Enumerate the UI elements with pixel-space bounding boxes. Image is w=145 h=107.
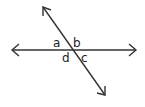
transversal-line — [43, 7, 105, 95]
angle-label-d: d — [62, 51, 70, 65]
angle-diagram: a b c d — [0, 0, 145, 107]
angle-label-b: b — [73, 36, 81, 50]
angle-label-a: a — [53, 36, 60, 50]
angle-label-c: c — [81, 51, 88, 65]
